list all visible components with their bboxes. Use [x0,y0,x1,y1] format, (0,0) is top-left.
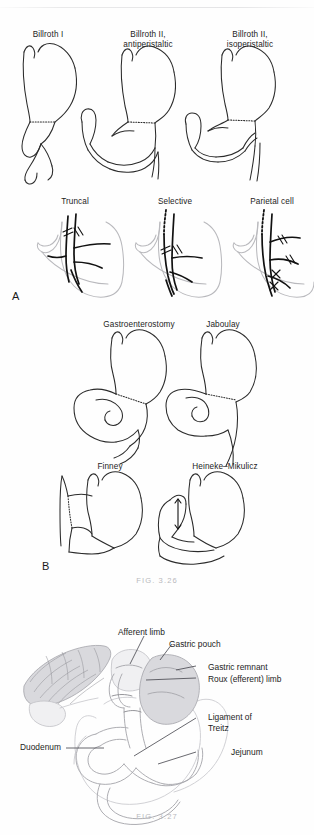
label-selective: Selective [158,197,192,207]
label-gastroenterostomy: Gastroenterostomy [103,320,174,330]
label-duodenum: Duodenum [20,742,61,752]
label-gastric-remnant: Gastric remnant [208,662,268,672]
diagram-billroth-2-antiperistaltic [81,46,175,179]
diagram-selective-vagotomy [135,210,221,297]
label-heineke-mikulicz: Heineke–Mikulicz [192,462,257,472]
diagram-parietal-cell-vagotomy [233,210,314,297]
diagram-billroth-1 [22,43,76,184]
label-roux-efferent-limb: Roux (efferent) limb [208,674,281,684]
figure-caption-3-26: FIG. 3.26 [0,576,314,585]
label-truncal: Truncal [61,197,89,207]
diagram-truncal-vagotomy [37,214,123,297]
label-billroth-1: Billroth I [33,30,64,40]
panel-letter-a: A [12,290,20,302]
label-billroth-2-antiperistaltic-line1: Billroth II, [130,30,165,40]
label-finney: Finney [97,462,122,472]
panel-letter-b: B [42,560,50,572]
label-jaboulay: Jaboulay [206,320,240,330]
label-afferent-limb: Afferent limb [118,627,165,637]
figure-caption-3-27: FIG. 3.27 [0,812,314,821]
label-gastric-pouch: Gastric pouch [169,639,221,649]
figure-3-27-illustration: .fa { fill:none; stroke:#c9c9cd; stroke-… [0,608,314,828]
diagram-jaboulay [166,330,256,466]
figure-3-26-illustration: .o { fill:none; stroke:#2b2b2b; stroke-w… [0,0,314,600]
label-jejunum: Jejunum [231,747,263,757]
label-ligament-of-treitz-line2: Treitz [208,723,229,733]
diagram-finney [60,472,142,554]
diagram-billroth-2-isoperistaltic [185,46,275,181]
diagram-gastroenterostomy [74,330,166,464]
label-billroth-2-isoperistaltic-line2: isoperistaltic [227,40,273,50]
label-billroth-2-isoperistaltic-line1: Billroth II, [232,30,267,40]
diagram-heineke-mikulicz [159,472,245,564]
textbook-figure-page: .o { fill:none; stroke:#2b2b2b; stroke-w… [0,0,314,835]
label-parietal-cell: Parietal cell [250,197,294,207]
label-ligament-of-treitz-line1: Ligament of [208,712,252,722]
label-billroth-2-antiperistaltic-line2: antiperistaltic [123,40,172,50]
